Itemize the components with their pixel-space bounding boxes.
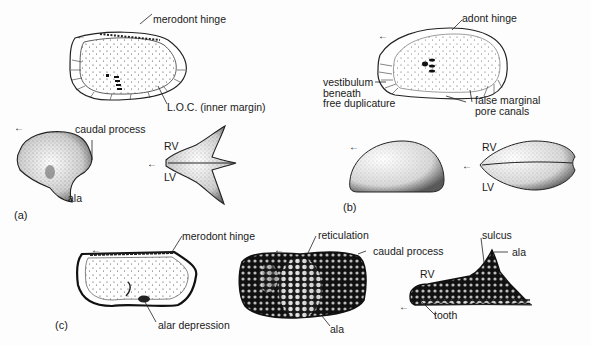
anterior-arrow-icon: ←: [14, 122, 24, 133]
label-caudal-process-a: caudal process: [75, 124, 146, 135]
label-reticulation: reticulation: [318, 230, 369, 241]
anterior-arrow-icon: ←: [462, 160, 472, 171]
label-vestibulum-line3: free duplicature: [323, 98, 395, 109]
anterior-arrow-icon: ←: [91, 244, 101, 255]
anterior-arrow-icon: ←: [349, 141, 359, 152]
label-ala-c-mid: ala: [330, 324, 344, 335]
anterior-arrow-icon: ←: [76, 30, 86, 41]
panel-b-interior-valve: [375, 20, 507, 102]
figure-artwork: ← ← ← ← ← ←: [0, 0, 591, 345]
label-rv-b: RV: [482, 142, 496, 153]
label-ala-a: ala: [68, 193, 82, 204]
panel-a-interior-valve: [70, 14, 186, 104]
label-lv-a: LV: [164, 172, 176, 183]
panel-b-lateral-valve: [350, 141, 444, 192]
label-merodont-hinge-c: merodont hinge: [182, 231, 255, 242]
label-alar-depression: alar depression: [158, 320, 230, 331]
panel-label-c: (c): [55, 320, 68, 331]
panel-label-a: (a): [14, 210, 27, 221]
label-merodont-hinge-a: merodont hinge: [153, 14, 226, 25]
label-sulcus: sulcus: [482, 230, 512, 241]
panel-a-dorsal-view: [166, 126, 236, 204]
label-lv-b: LV: [482, 182, 494, 193]
label-rv-c: RV: [420, 269, 434, 280]
ostracod-figure: ← ← ← ← ← ←: [0, 0, 591, 345]
label-caudal-process-c: caudal process: [373, 246, 444, 257]
label-loc-inner-margin: L.O.C. (inner margin): [167, 102, 266, 113]
panel-c-reticulate-valve: [239, 236, 366, 326]
label-false-marginal-line2: pore canals: [475, 106, 529, 117]
label-ala-c-right: ala: [512, 247, 526, 258]
anterior-arrow-icon: ←: [378, 30, 388, 41]
anterior-arrow-icon: ←: [399, 301, 409, 312]
label-tooth: tooth: [434, 310, 457, 321]
anterior-arrow-icon: ←: [147, 158, 157, 169]
panel-label-b: (b): [343, 202, 356, 213]
label-adont-hinge: adont hinge: [462, 13, 517, 24]
anterior-arrow-icon: ←: [274, 244, 284, 255]
label-rv-a: RV: [164, 141, 178, 152]
